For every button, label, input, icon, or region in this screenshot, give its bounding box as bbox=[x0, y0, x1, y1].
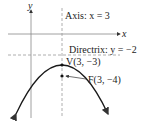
focus-label: F(3, −4) bbox=[88, 75, 121, 85]
y-axis-label: y bbox=[28, 1, 32, 11]
vertex-point bbox=[60, 63, 63, 66]
parabola-diagram: y x Axis: x = 3 Directrix: y = −2 V(3, −… bbox=[0, 0, 145, 122]
vertex-label: V(3, −3) bbox=[66, 57, 101, 67]
focus-pointer bbox=[66, 76, 86, 79]
directrix-label: Directrix: y = −2 bbox=[69, 45, 137, 55]
x-axis-label: x bbox=[122, 29, 126, 39]
focus-point bbox=[60, 74, 63, 77]
axis-of-symmetry-label: Axis: x = 3 bbox=[65, 11, 110, 21]
